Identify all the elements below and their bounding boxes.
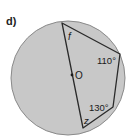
angle-label-z: z [83, 115, 89, 126]
center-label: O [75, 70, 83, 81]
center-point [71, 74, 74, 77]
circle-diagram: O f 110° 130° z [0, 0, 134, 139]
angle-label-110: 110° [97, 55, 116, 66]
angle-label-130: 130° [89, 102, 109, 113]
